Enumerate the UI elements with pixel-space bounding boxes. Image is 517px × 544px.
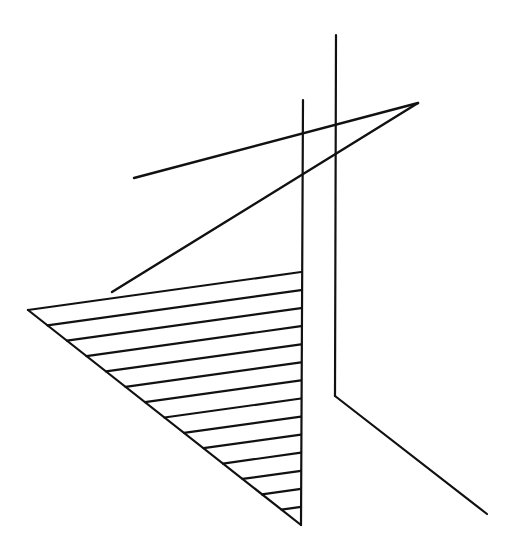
string-art-figure (0, 0, 517, 544)
vertical-line-right (335, 35, 336, 396)
background (0, 0, 517, 544)
